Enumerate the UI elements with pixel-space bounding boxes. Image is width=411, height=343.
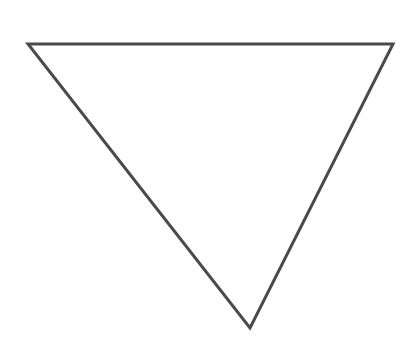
diagram-canvas — [0, 0, 411, 343]
inverted-triangle-shape — [28, 44, 393, 328]
triangle-diagram — [0, 0, 411, 343]
